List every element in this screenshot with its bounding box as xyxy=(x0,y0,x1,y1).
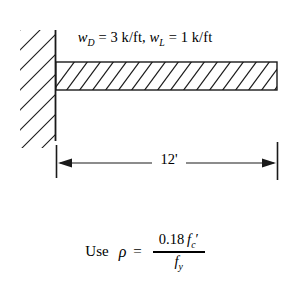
live-load-symbol: w xyxy=(150,29,160,45)
dimension-arrow-left xyxy=(58,159,72,168)
rho-symbol: ρ xyxy=(116,243,127,261)
live-load-value: 1 k/ft xyxy=(181,29,213,45)
live-load-equals: = xyxy=(169,29,177,45)
formula-lead-word: Use xyxy=(85,243,108,260)
numerator-prime: ′ xyxy=(196,231,199,247)
dimension-arrow-right xyxy=(262,159,276,168)
load-separator: , xyxy=(142,29,149,45)
rho-formula: Use ρ = 0.18 fc′ fy xyxy=(0,232,290,272)
load-label: wD = 3 k/ft, wL = 1 k/ft xyxy=(0,29,290,48)
beam-outline xyxy=(56,62,277,90)
formula-equals: = xyxy=(133,243,141,260)
dead-load-equals: = xyxy=(98,29,106,45)
dead-load-symbol: w xyxy=(78,29,88,45)
formula-fraction: 0.18 fc′ fy xyxy=(153,232,205,272)
span-dimension-label: 12' xyxy=(152,152,186,167)
formula-numerator: 0.18 fc′ xyxy=(153,232,205,251)
numerator-coefficient: 0.18 xyxy=(159,231,184,247)
live-load-subscript: L xyxy=(159,37,165,48)
formula-denominator: fy xyxy=(169,253,189,272)
dead-load-subscript: D xyxy=(88,37,95,48)
denominator-subscript: y xyxy=(179,261,183,272)
cantilever-beam-figure: wD = 3 k/ft, wL = 1 k/ft 12' Use ρ = 0.1… xyxy=(0,0,290,293)
dead-load-value: 3 k/ft xyxy=(110,29,142,45)
